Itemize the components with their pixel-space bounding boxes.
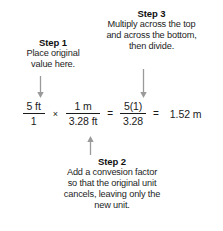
step-2-body-line-4: new unit. <box>12 200 212 211</box>
step-2-title: Step 2 <box>12 156 212 167</box>
step-3-annotation: Step 3 Multiply across the top and acros… <box>80 8 223 52</box>
step-3-body-line-1: Multiply across the top <box>80 19 223 30</box>
step-3-body-line-2: and across the bottom, <box>80 30 223 41</box>
equals-operator-2: = <box>147 108 165 119</box>
up-arrow-icon <box>86 136 95 155</box>
step-2-annotation: Step 2 Add a convesion factor so that th… <box>12 156 212 211</box>
down-arrow-icon <box>36 76 45 99</box>
fraction-1-numerator: 5 ft <box>24 100 44 113</box>
fraction-conversion-factor: 1 m 3.28 ft <box>65 100 102 127</box>
equals-operator-1: = <box>101 108 119 119</box>
step-3-body-line-3: then divide. <box>80 41 223 52</box>
fraction-2-denominator: 3.28 ft <box>66 114 101 127</box>
step-1-body-line-2: value here. <box>2 59 104 70</box>
step-3-title: Step 3 <box>80 8 223 19</box>
step-2-body-line-3: cancels, leaving only the <box>12 189 212 200</box>
fraction-product: 5(1) 3.28 <box>119 100 147 127</box>
equation-row: 5 ft 1 × 1 m 3.28 ft = 5(1) 3.28 = 1.52 … <box>0 100 223 127</box>
equation-result: 1.52 m <box>165 108 202 120</box>
down-arrow-icon <box>139 69 148 99</box>
fraction-1-denominator: 1 <box>28 114 40 127</box>
step-2-body-line-2: so that the original unit <box>12 178 212 189</box>
fraction-3-denominator: 3.28 <box>120 114 146 127</box>
step-2-body-line-1: Add a convesion factor <box>12 167 212 178</box>
conversion-diagram: Step 1 Place original value here. Step 3… <box>0 0 223 231</box>
multiplication-operator: × <box>46 109 65 119</box>
fraction-2-numerator: 1 m <box>71 100 94 113</box>
fraction-3-numerator: 5(1) <box>121 100 145 113</box>
fraction-original-value: 5 ft 1 <box>22 100 46 127</box>
